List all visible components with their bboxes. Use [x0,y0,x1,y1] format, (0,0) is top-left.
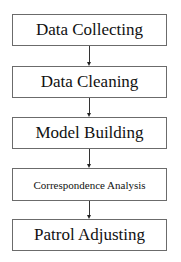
step-data-collecting: Data Collecting [12,14,167,46]
step-label: Model Building [35,123,143,143]
arrow-connector [89,149,90,164]
step-patrol-adjusting: Patrol Adjusting [12,219,167,251]
step-model-building: Model Building [12,117,167,149]
arrow-connector [89,201,90,215]
step-label: Patrol Adjusting [34,225,145,245]
arrow-connector [89,46,90,62]
step-correspondence-analysis: Correspondence Analysis [12,168,167,201]
step-data-cleaning: Data Cleaning [12,66,167,98]
step-label: Data Cleaning [41,72,139,92]
step-label: Data Collecting [36,20,143,40]
step-label: Correspondence Analysis [33,179,145,191]
arrow-connector [89,98,90,113]
